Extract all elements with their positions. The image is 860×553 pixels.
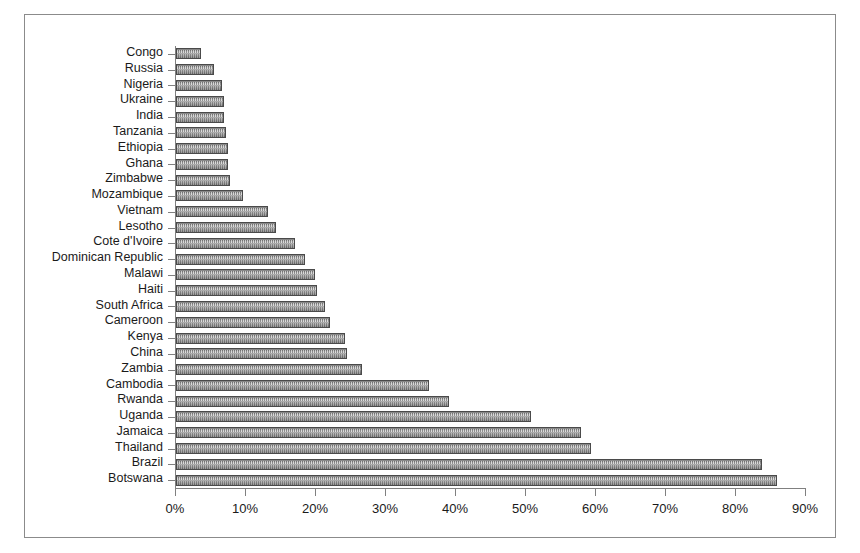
- bar: [176, 285, 317, 296]
- y-axis-tick: [168, 354, 175, 355]
- y-axis-tick-label: China: [130, 345, 163, 361]
- bar-row: Haiti: [175, 283, 805, 299]
- y-axis-tick-label: Cameroon: [105, 313, 163, 329]
- x-axis-tick: [805, 488, 806, 496]
- bar: [176, 269, 315, 280]
- bar-row: Zimbabwe: [175, 172, 805, 188]
- y-axis-tick-label: Dominican Republic: [52, 250, 163, 266]
- y-axis-tick: [168, 101, 175, 102]
- y-axis-tick: [168, 180, 175, 181]
- x-axis-tick-label: 90%: [792, 501, 818, 516]
- bar-row: Lesotho: [175, 220, 805, 236]
- bar: [176, 396, 449, 407]
- bar-row: Botswana: [175, 472, 805, 488]
- bar-row: Jamaica: [175, 425, 805, 441]
- bar-row: Rwanda: [175, 393, 805, 409]
- y-axis-tick-label: Congo: [126, 45, 163, 61]
- y-axis-tick-label: India: [136, 108, 163, 124]
- y-axis-tick: [168, 291, 175, 292]
- bar-row: Uganda: [175, 409, 805, 425]
- y-axis-tick-label: Uganda: [119, 408, 163, 424]
- bar: [176, 411, 531, 422]
- y-axis-tick-label: Haiti: [138, 282, 163, 298]
- x-axis-tick: [735, 488, 736, 496]
- y-axis-tick-label: Nigeria: [123, 77, 163, 93]
- bar-row: Ethiopia: [175, 141, 805, 157]
- y-axis-tick: [168, 322, 175, 323]
- bar-row: Ukraine: [175, 93, 805, 109]
- y-axis-tick: [168, 401, 175, 402]
- y-axis-tick: [168, 385, 175, 386]
- bar-row: Ghana: [175, 157, 805, 173]
- chart-figure: CongoRussiaNigeriaUkraineIndiaTanzaniaEt…: [0, 0, 860, 553]
- y-axis-tick: [168, 85, 175, 86]
- y-axis-tick: [168, 133, 175, 134]
- plot-area: CongoRussiaNigeriaUkraineIndiaTanzaniaEt…: [175, 46, 805, 488]
- y-axis-tick-label: Zimbabwe: [105, 171, 163, 187]
- bar: [176, 364, 362, 375]
- bar-row: South Africa: [175, 299, 805, 315]
- x-axis-tick-label: 30%: [372, 501, 398, 516]
- x-axis-tick-label: 40%: [442, 501, 468, 516]
- y-axis-tick: [168, 449, 175, 450]
- y-axis-tick: [168, 417, 175, 418]
- bar: [176, 190, 243, 201]
- y-axis-tick-label: Cote d'Ivoire: [93, 234, 163, 250]
- y-axis-tick-label: Lesotho: [119, 219, 163, 235]
- x-axis-tick: [455, 488, 456, 496]
- y-axis-tick-label: Ghana: [125, 156, 163, 172]
- y-axis-tick: [168, 54, 175, 55]
- bar: [176, 475, 777, 486]
- x-axis-spine: [175, 488, 806, 489]
- y-axis-tick: [168, 117, 175, 118]
- y-axis-tick-label: Ukraine: [120, 92, 163, 108]
- y-axis-tick: [168, 433, 175, 434]
- bar-row: Tanzania: [175, 125, 805, 141]
- bar-row: Nigeria: [175, 78, 805, 94]
- y-axis-tick: [168, 370, 175, 371]
- bar: [176, 80, 222, 91]
- y-axis-tick-label: Rwanda: [117, 392, 163, 408]
- y-axis-tick: [168, 149, 175, 150]
- bar: [176, 427, 581, 438]
- x-axis-tick: [245, 488, 246, 496]
- bar: [176, 206, 268, 217]
- bar: [176, 254, 305, 265]
- bar-row: Cote d'Ivoire: [175, 235, 805, 251]
- bar: [176, 64, 214, 75]
- x-axis-tick: [175, 488, 176, 496]
- bar-row: India: [175, 109, 805, 125]
- bar: [176, 48, 201, 59]
- bar: [176, 175, 230, 186]
- bar-row: China: [175, 346, 805, 362]
- y-axis-tick-label: Brazil: [132, 455, 163, 471]
- x-axis-tick: [385, 488, 386, 496]
- x-axis-tick-label: 20%: [302, 501, 328, 516]
- bar: [176, 301, 325, 312]
- bar: [176, 143, 228, 154]
- x-axis-tick-label: 60%: [582, 501, 608, 516]
- bar-row: Russia: [175, 62, 805, 78]
- y-axis-tick-label: Botswana: [108, 471, 163, 487]
- y-axis-tick-label: Ethiopia: [118, 140, 163, 156]
- bar-row: Brazil: [175, 456, 805, 472]
- x-axis-tick-label: 50%: [512, 501, 538, 516]
- bar-row: Vietnam: [175, 204, 805, 220]
- bar-row: Congo: [175, 46, 805, 62]
- x-axis-tick-label: 10%: [232, 501, 258, 516]
- bar: [176, 348, 347, 359]
- y-axis-tick: [168, 464, 175, 465]
- y-axis-tick: [168, 243, 175, 244]
- bar-row: Zambia: [175, 362, 805, 378]
- y-axis-tick-label: Mozambique: [91, 187, 163, 203]
- x-axis-tick-label: 0%: [166, 501, 185, 516]
- x-axis-tick: [595, 488, 596, 496]
- y-axis-tick: [168, 196, 175, 197]
- bar: [176, 459, 762, 470]
- y-axis-tick: [168, 228, 175, 229]
- x-axis-tick-label: 80%: [722, 501, 748, 516]
- y-axis-tick-label: Tanzania: [113, 124, 163, 140]
- y-axis-tick: [168, 275, 175, 276]
- x-axis-tick-label: 70%: [652, 501, 678, 516]
- y-axis-tick: [168, 306, 175, 307]
